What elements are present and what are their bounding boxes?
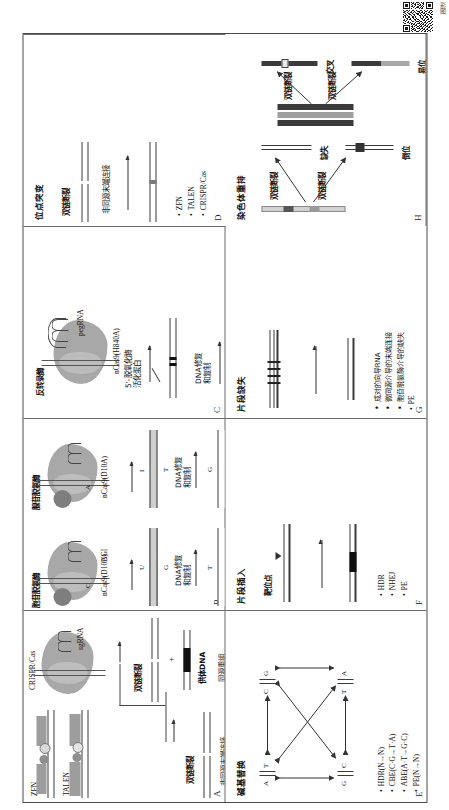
panel-B-abe-strand-top <box>149 430 150 508</box>
panel-letter-H: H <box>412 215 422 222</box>
panel-D-break-gap <box>79 181 90 184</box>
panel-G-deletion-boundary-3 <box>267 368 280 370</box>
panel-E-tool-2: ABE(A·T→G·C) <box>398 733 410 792</box>
cas9-dna-strand-2 <box>33 670 105 671</box>
panel-A-donor-insert <box>183 648 190 672</box>
nhej-branch-line <box>165 706 166 742</box>
abe-sgrna-hairpin-2 <box>67 443 81 454</box>
panel-G-tool-0: 成对的向导RNA <box>371 332 383 410</box>
panel-G-dna-result <box>347 338 354 400</box>
qr-caption: 彩图 <box>439 2 445 14</box>
panel-B-abe-repair-label: DNA修复 和复制 <box>173 457 192 488</box>
qr-code-icon[interactable] <box>399 2 437 32</box>
panel-B: B 胞苷脱氨酶 C nCas9(D10A) UGI <box>23 418 225 610</box>
panel-D-nhej-label: 非同源末端连接 <box>101 165 110 214</box>
panel-B-ncas9-abe-label: nCas9(D10A) <box>99 456 108 498</box>
panel-D-nhej-arrow <box>127 156 128 210</box>
panel-H-outcome-crossover: 交叉 <box>323 60 334 74</box>
zfn-fok1-left <box>39 755 48 764</box>
panel-C-flap-strand <box>151 368 160 382</box>
panel-H-title: 染色体重排 <box>233 175 245 220</box>
talen-dna-duplex <box>81 710 88 798</box>
cas9-lobe <box>47 662 87 684</box>
panel-C-arrow-2 <box>219 342 220 384</box>
panel-C-ncas9-label: nCas9(H840A) <box>111 328 120 374</box>
panel-H-inversion-product <box>345 145 393 150</box>
panel-H-outcome-translocation: 易位 <box>415 60 426 74</box>
panel-H-crossover-junction <box>281 59 288 68</box>
cbe-dna-strand-2 <box>37 578 109 579</box>
panel-B-cbe-arrow-2 <box>195 550 196 586</box>
talen-fok1-left <box>72 753 81 762</box>
panel-H-inversion-segment <box>355 143 364 152</box>
panel-H-deletion-product <box>261 145 311 150</box>
panel-E: E 碱基替换 A T C G G C <box>225 610 427 802</box>
panel-F-inserted-fragment <box>349 552 356 572</box>
panel-A-recomb-label: 同源重组 <box>215 654 225 682</box>
panel-B-cbe-t-base: T <box>205 566 213 570</box>
panel-A-sgrna-label: sgRNA <box>75 627 84 650</box>
pe-cas9-lobe <box>59 352 101 374</box>
qr-code-block[interactable]: 彩图 <box>399 2 445 32</box>
panel-G-deletion-boundary-1 <box>267 382 280 384</box>
panel-D-dsb-label: 双链断裂 <box>59 188 70 216</box>
panel-B-abe-target-base: A <box>83 485 91 490</box>
talen-array-left <box>69 762 80 796</box>
panel-B-cbe-arrow-1 <box>131 560 132 590</box>
cas9-dna-strand-1 <box>33 675 105 676</box>
hdr-branch-arrow <box>119 642 120 662</box>
zfn-fok1-right <box>39 743 50 754</box>
abe-sgrna-hairpin-1 <box>67 453 81 464</box>
panel-A-hdr-break-gap <box>149 659 160 662</box>
panel-D-tool-list: ZFN TALEN CRISPR/Cas <box>173 171 209 216</box>
zfn-finger-right <box>36 716 46 746</box>
panel-E-tool-1: CBE(C·G→T·A) <box>386 733 398 792</box>
panel-D-tool-0: ZFN <box>173 171 185 216</box>
panel-H-translocation-seg-b <box>381 61 409 66</box>
panel-G-title: 片段缺失 <box>233 376 245 412</box>
panel-letter-E: E <box>413 792 423 798</box>
figure-root: 彩图 A ZFN TALEN <box>0 0 449 810</box>
panel-B-abe-i-base: I <box>137 470 145 472</box>
abe-dna-strand-2 <box>37 480 109 481</box>
panel-G-tool-list: 成对的向导RNA 微同源介导的末端连接 胞苷脱氨酶介导的缺失 PE <box>371 332 418 410</box>
panel-G-deletion-boundary-2 <box>267 375 280 377</box>
sgrna-hairpin-2 <box>57 631 71 642</box>
panel-H-crossover-product <box>261 61 317 66</box>
panel-letter-A: A <box>211 791 221 798</box>
panel-grid: A ZFN TALEN CRIS <box>23 34 426 802</box>
panel-A-dsb-label: 双链断裂 <box>183 756 194 784</box>
panel-B-cbe-dna-2 <box>217 528 225 606</box>
panel-B-abe-t-base: T <box>161 468 169 472</box>
panel-F-tool-1: NHEJ <box>386 572 398 596</box>
panel-D-tool-2: CRISPR/Cas <box>197 171 209 216</box>
panel-G: G 片段缺失 成对的向导RNA 微同源介导的末端连接 胞苷脱氨酶介导的缺 <box>225 226 427 418</box>
panel-E-title: 碱基替换 <box>233 760 245 796</box>
branch-bracket-top <box>119 664 120 706</box>
panel-A-hdr-dsb-label: 双链断裂 <box>131 664 142 692</box>
panel-C-edit-mark-1 <box>169 363 176 366</box>
panel-B-cbe-g-base: G <box>161 565 169 570</box>
panel-H-branch-arrows-left <box>261 146 357 208</box>
panel-H-outcome-deletion: 缺失 <box>317 146 328 160</box>
panel-H-outcome-inversion: 倒位 <box>399 146 410 160</box>
panel-B-abe-strand-bottom <box>156 430 157 508</box>
figure-canvas: A ZFN TALEN CRIS <box>22 33 427 803</box>
panel-H-translocation-seg-a <box>351 61 381 66</box>
sgrna-hairpin-1 <box>57 641 71 652</box>
panel-G-tool-2: 胞苷脱氨酶介导的缺失 <box>394 332 406 410</box>
panel-E-tool-3: PE(N→N) <box>410 733 422 792</box>
panel-C-arrow-1 <box>149 346 150 382</box>
panel-B-abe-arrow-2 <box>195 452 196 488</box>
panel-B-ugi-label: UGI <box>99 549 108 562</box>
panel-B-cbe-strand-top <box>149 528 150 606</box>
panel-letter-F: F <box>413 600 423 605</box>
zfn-finger-left <box>36 764 46 794</box>
panel-H-branch-arrows-right <box>265 66 375 128</box>
panel-H: H 染色体重排 双链断裂 双链断裂 <box>225 34 427 226</box>
panel-C-edit-mark-2 <box>169 357 176 360</box>
abe-deaminase-domain <box>53 490 71 508</box>
peg-rna-loop <box>47 318 66 348</box>
figure-rotation-wrapper: A ZFN TALEN CRIS <box>0 33 449 803</box>
cbe-sgrna-hairpin-1 <box>67 551 81 562</box>
